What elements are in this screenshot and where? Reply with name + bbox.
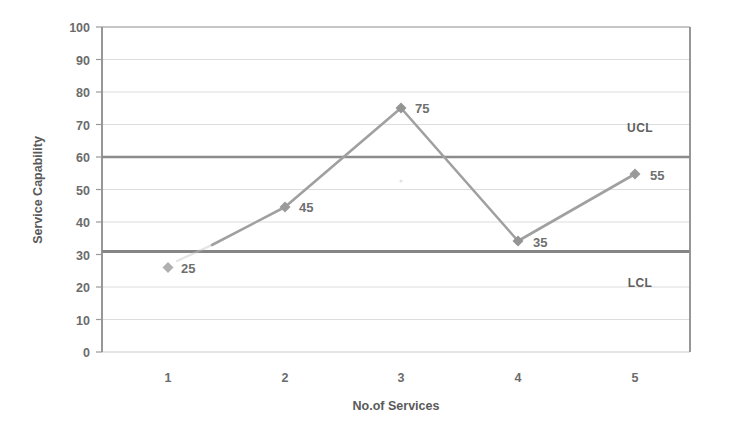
- xtick-label-5: 5: [632, 371, 639, 385]
- scan-artifact-speck: [399, 179, 402, 182]
- x-axis-title: No.of Services: [353, 399, 440, 413]
- ytick-label-70: 70: [76, 119, 90, 133]
- chart-canvas: 100 90 80 70 60 50 40 30 20 10 0 1 2 3 4…: [0, 0, 729, 430]
- ucl-label: UCL: [627, 121, 653, 135]
- xtick-label-3: 3: [398, 371, 405, 385]
- ytick-label-0: 0: [83, 346, 90, 360]
- ytick-label-10: 10: [76, 314, 90, 328]
- control-chart: 100 90 80 70 60 50 40 30 20 10 0 1 2 3 4…: [0, 0, 729, 430]
- ytick-label-40: 40: [76, 216, 90, 230]
- ytick-label-50: 50: [76, 184, 90, 198]
- x-axis-tick-labels: 1 2 3 4 5: [165, 371, 639, 385]
- data-point-label-2: 45: [299, 200, 313, 215]
- data-point-label-4: 35: [533, 235, 547, 250]
- ytick-label-100: 100: [69, 21, 90, 35]
- ytick-label-90: 90: [76, 54, 90, 68]
- ytick-label-20: 20: [76, 281, 90, 295]
- ytick-label-80: 80: [76, 86, 90, 100]
- data-point-label-5: 55: [650, 168, 664, 183]
- y-axis-title: Service Capability: [31, 136, 45, 244]
- xtick-label-4: 4: [515, 371, 522, 385]
- xtick-label-1: 1: [165, 371, 172, 385]
- ytick-label-30: 30: [76, 249, 90, 263]
- y-axis-tick-labels: 100 90 80 70 60 50 40 30 20 10 0: [69, 21, 90, 360]
- data-point-label-3: 75: [415, 101, 429, 116]
- xtick-label-2: 2: [282, 371, 289, 385]
- ytick-label-60: 60: [76, 151, 90, 165]
- data-point-label-1: 25: [181, 261, 195, 276]
- lcl-label: LCL: [628, 276, 653, 290]
